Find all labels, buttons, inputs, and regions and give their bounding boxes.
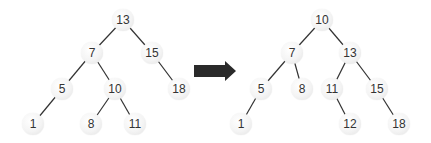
tree-node-after-1: 1 — [230, 113, 252, 135]
tree-node-before-1: 1 — [22, 113, 44, 135]
tree-node-before-5: 5 — [51, 78, 73, 100]
tree-node-before-7: 7 — [81, 42, 103, 64]
tree-node-after-15: 15 — [366, 78, 388, 100]
tree-node-before-13: 13 — [112, 9, 134, 31]
right-arrow-icon — [0, 0, 431, 143]
tree-node-after-5: 5 — [250, 78, 272, 100]
tree-node-after-18: 18 — [388, 113, 410, 135]
tree-node-before-18: 18 — [168, 78, 190, 100]
tree-node-after-11: 11 — [321, 78, 343, 100]
tree-node-after-10: 10 — [311, 9, 333, 31]
tree-node-after-7: 7 — [281, 42, 303, 64]
tree-node-before-10: 10 — [104, 78, 126, 100]
tree-node-before-8: 8 — [80, 113, 102, 135]
tree-node-after-8: 8 — [291, 78, 313, 100]
tree-node-before-15: 15 — [141, 42, 163, 64]
tree-node-before-11: 11 — [124, 113, 146, 135]
tree-node-after-12: 12 — [339, 113, 361, 135]
tree-diagram: 137155101818111071358111511218 — [0, 0, 431, 143]
tree-node-after-13: 13 — [339, 42, 361, 64]
